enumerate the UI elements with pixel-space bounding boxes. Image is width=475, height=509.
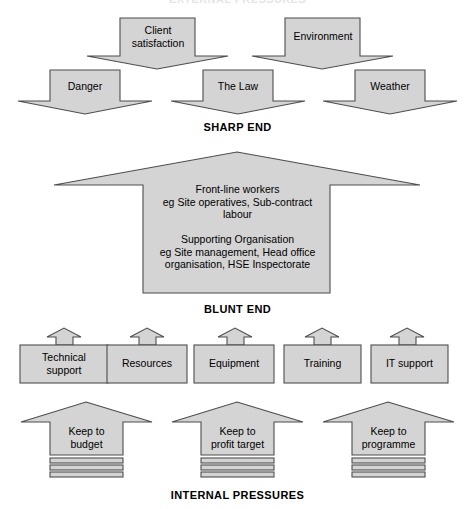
up-arrow-keep-to-programme (323, 402, 454, 455)
stripe-profit-2 (201, 465, 274, 470)
box-technical-support (20, 345, 108, 383)
central-up-arrow-block (54, 152, 420, 293)
up-arrow-keep-to-profit-target (172, 402, 303, 455)
box-training (284, 345, 361, 383)
stripe-budget-2 (50, 465, 123, 470)
down-arrow-client-satisfaction (87, 18, 228, 69)
diagram-canvas (0, 0, 475, 509)
label-sharp-end: SHARP END (0, 121, 475, 133)
up-arrow-it-support (390, 328, 424, 345)
pressures-diagram: EXTERNAL PRESSURES SHARP END BLUNT END I… (0, 0, 475, 509)
up-arrow-resources (130, 328, 164, 345)
down-arrow-weather (323, 70, 457, 114)
stripe-programme-1 (352, 458, 425, 463)
up-arrow-keep-to-budget (21, 402, 152, 455)
label-blunt-end: BLUNT END (0, 303, 475, 315)
down-arrow-danger (18, 70, 152, 114)
stripe-programme-3 (352, 472, 425, 477)
up-arrow-equipment (218, 328, 252, 345)
down-arrow-environment (252, 18, 393, 69)
title-internal-pressures: INTERNAL PRESSURES (0, 489, 475, 501)
box-it-support (371, 345, 448, 383)
up-arrow-training (305, 328, 339, 345)
down-arrow-the-law (171, 70, 305, 114)
stripe-budget-1 (50, 458, 123, 463)
box-resources (107, 345, 187, 383)
up-arrow-technical-support (47, 328, 81, 345)
stripe-programme-2 (352, 465, 425, 470)
box-equipment (194, 345, 274, 383)
stripe-budget-3 (50, 472, 123, 477)
stripe-profit-1 (201, 458, 274, 463)
title-external-pressures: EXTERNAL PRESSURES (0, 0, 475, 5)
stripe-profit-3 (201, 472, 274, 477)
